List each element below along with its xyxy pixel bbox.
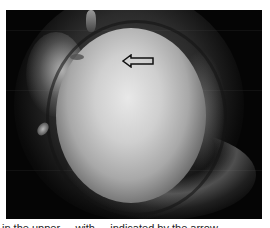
lesion-spot <box>70 54 84 60</box>
figure-caption: in the upper ... with ... indicated by t… <box>0 219 270 228</box>
arrow-left-icon <box>122 54 154 68</box>
top-protrusion <box>86 10 96 32</box>
dome-rim <box>46 20 227 216</box>
caption-text: in the upper ... with ... indicated by t… <box>2 222 230 228</box>
endoscopic-image <box>6 10 262 219</box>
